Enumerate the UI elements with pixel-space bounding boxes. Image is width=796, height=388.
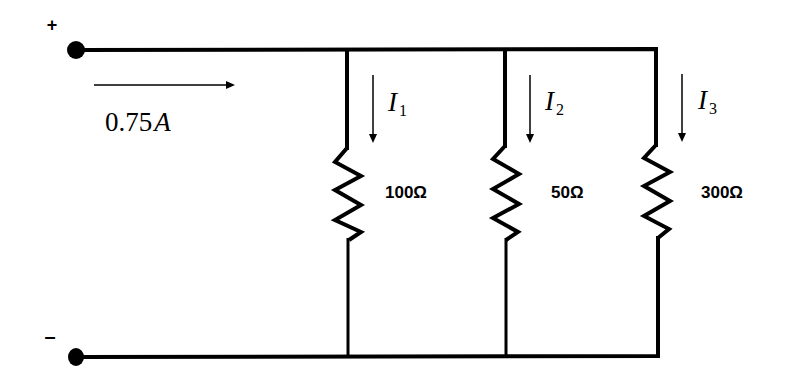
branch-2-current-subscript: 2: [556, 101, 564, 118]
parallel-circuit-diagram: + – 0.75A I1 I2 I3 100Ω 50Ω 300Ω: [0, 0, 796, 388]
branch-1-current-symbol: I: [387, 87, 399, 117]
source-current-value: 0.75: [105, 107, 152, 137]
negative-terminal-sign: –: [44, 325, 55, 347]
source-current-unit: A: [152, 107, 171, 137]
resistor-3-value: 300Ω: [701, 183, 743, 202]
resistor-1-value: 100Ω: [385, 183, 427, 202]
branch-3-arrowhead-icon: [678, 133, 686, 142]
resistor-3-icon: [644, 145, 670, 238]
resistor-2-icon: [493, 146, 519, 240]
branch-3-current-label: I3: [697, 85, 717, 117]
branch-2-current-symbol: I: [544, 86, 556, 116]
branch-3-current-subscript: 3: [709, 100, 717, 117]
branch-3-current-symbol: I: [697, 85, 709, 115]
branch-1-arrowhead-icon: [369, 134, 377, 143]
resistor-1-icon: [335, 148, 361, 240]
positive-terminal-sign: +: [47, 15, 58, 35]
resistor-2-value: 50Ω: [551, 183, 584, 202]
source-current-label: 0.75A: [105, 107, 171, 137]
branch-2-current-label: I2: [544, 86, 564, 118]
branch-1-current-subscript: 1: [399, 102, 407, 119]
branch-1-current-label: I1: [387, 87, 407, 119]
bottom-rail-wire: [76, 238, 658, 357]
source-current-arrowhead-icon: [226, 81, 235, 89]
branch-2-arrowhead-icon: [526, 134, 534, 143]
